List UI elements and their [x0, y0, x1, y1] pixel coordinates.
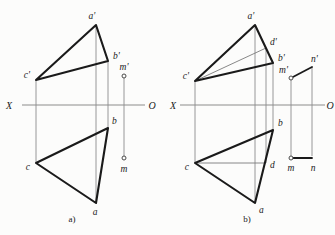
point-label-m-prime-b: m' [279, 65, 289, 75]
point-label-b-a: b [112, 116, 117, 126]
point-marker-m-a [122, 156, 126, 160]
triangle-lower-a [36, 128, 108, 203]
point-label-a-b: a [259, 205, 264, 215]
axis-label-x-a: X [5, 100, 13, 111]
projection-drawing: X O a' b' c' a b c m' m a) [0, 0, 335, 235]
point-marker-m-prime-b [289, 76, 293, 80]
panel-b-caption: b) [243, 214, 251, 224]
point-label-m-a: m [121, 164, 128, 174]
point-label-n-b: n [311, 163, 316, 173]
point-label-b-prime-a: b' [113, 51, 121, 61]
panel-b: X O a' d' b' c' a b c d m' n' m n b) [169, 11, 334, 224]
triangle-upper-b [195, 25, 273, 81]
point-label-d-b: d [270, 160, 275, 170]
point-label-b-prime-b: b' [278, 53, 286, 63]
point-label-c-b: c [185, 162, 190, 172]
panel-b-projection-lines [195, 25, 312, 203]
triangle-upper-a [36, 25, 108, 80]
panel-a-projection-lines [36, 25, 124, 203]
point-label-a-prime-b: a' [248, 11, 256, 21]
point-label-c-a: c [26, 162, 31, 172]
axis-label-x-b: X [169, 100, 177, 111]
point-marker-m-prime-a [122, 74, 126, 78]
point-marker-m-b [289, 156, 293, 160]
point-label-c-prime-a: c' [24, 70, 31, 80]
axis-label-o-b: O [326, 100, 333, 111]
point-label-m-prime-a: m' [120, 62, 130, 72]
point-label-c-prime-b: c' [183, 71, 190, 81]
point-label-a-a: a [93, 207, 98, 217]
point-label-a-prime-a: a' [89, 11, 97, 21]
panel-a: X O a' b' c' a b c m' m a) [5, 11, 156, 224]
point-label-b-b: b [278, 118, 283, 128]
axis-label-o-a: O [148, 100, 155, 111]
segment-m-prime-n-prime [291, 67, 312, 78]
point-label-m-b: m [288, 163, 295, 173]
point-label-d-prime-b: d' [270, 37, 278, 47]
panel-a-caption: a) [69, 214, 76, 224]
triangle-lower-b [195, 130, 273, 203]
point-label-n-prime-b: n' [311, 54, 319, 64]
figure-canvas: X O a' b' c' a b c m' m a) [0, 0, 335, 235]
